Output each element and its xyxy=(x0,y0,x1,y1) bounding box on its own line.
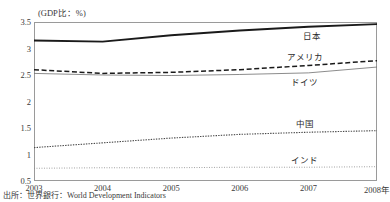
y-axis-tick-label: 1 xyxy=(1,150,31,160)
series-line xyxy=(34,167,377,169)
y-axis: 0.511.522.533.5 xyxy=(0,22,31,181)
series-lines-layer xyxy=(34,22,377,181)
y-axis-tick-label: 3.5 xyxy=(1,17,31,27)
y-axis-unit-note: (GDP比：%) xyxy=(38,6,86,18)
y-axis-tick-label: 1.5 xyxy=(1,123,31,133)
y-axis-tick-label: 2 xyxy=(1,97,31,107)
series-label: アメリカ xyxy=(287,50,323,62)
y-axis-tick-label: 3 xyxy=(1,44,31,54)
series-line xyxy=(34,24,377,41)
series-line xyxy=(34,131,377,148)
series-label: 日本 xyxy=(303,29,321,41)
series-label: ドイツ xyxy=(291,75,318,87)
x-axis-tick-label: 2008年 xyxy=(364,183,390,195)
x-axis-tick-label: 2006 xyxy=(231,183,248,193)
series-label: 中国 xyxy=(296,117,314,129)
source-note: 出所：世界銀行：World Development Indicators xyxy=(3,189,166,200)
x-axis-tick-label: 2007 xyxy=(300,183,317,193)
y-axis-tick-label: 2.5 xyxy=(1,70,31,80)
series-label: インド xyxy=(291,153,318,165)
